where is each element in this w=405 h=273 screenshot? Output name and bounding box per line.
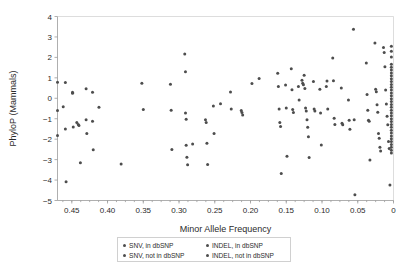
- x-tick-label: 0.35: [135, 206, 151, 215]
- x-tick-label: 0.10: [314, 206, 330, 215]
- data-point: [390, 91, 393, 94]
- data-point: [183, 52, 186, 55]
- data-point: [285, 107, 288, 110]
- legend-marker-icon: [123, 244, 126, 247]
- data-point: [331, 57, 334, 60]
- data-point: [62, 105, 65, 108]
- x-tick-label: 0.15: [278, 206, 294, 215]
- data-point: [382, 46, 385, 49]
- y-tick-label: −2: [43, 135, 53, 144]
- data-point: [378, 137, 381, 140]
- data-point: [347, 98, 350, 101]
- x-axis-title: Minor Allele Frequency: [180, 224, 272, 234]
- data-point: [332, 79, 335, 82]
- data-point: [384, 89, 387, 92]
- data-point: [302, 83, 305, 86]
- axis-tick-labels: 43210−1−2−3−4−50.450.400.350.300.250.200…: [43, 13, 396, 215]
- chart-legend: SNV, in dbSNP INDEL, in dbSNP SNV, not i…: [117, 237, 291, 262]
- legend-label: INDEL, in dbSNP: [212, 241, 263, 250]
- data-point: [390, 100, 393, 103]
- data-point: [386, 115, 389, 118]
- data-point: [72, 125, 75, 128]
- data-point: [376, 111, 379, 114]
- data-point: [319, 112, 322, 115]
- plot-canvas: 43210−1−2−3−4−50.450.400.350.300.250.200…: [0, 0, 405, 273]
- data-point: [340, 87, 343, 90]
- data-point: [365, 62, 368, 65]
- data-point: [390, 77, 393, 80]
- data-point: [85, 118, 88, 121]
- data-point: [184, 70, 187, 73]
- data-point: [285, 155, 288, 158]
- legend-label: INDEL, not in dbSNP: [212, 251, 274, 260]
- data-point: [290, 88, 293, 91]
- data-point: [390, 152, 393, 155]
- data-point: [185, 144, 188, 147]
- data-point: [366, 93, 369, 96]
- data-point: [85, 87, 88, 90]
- data-point: [71, 92, 74, 95]
- data-point: [280, 172, 283, 175]
- y-axis-title: PhyloP (Mammals): [8, 71, 18, 147]
- data-point: [92, 148, 95, 151]
- data-point: [306, 118, 309, 121]
- data-point: [191, 143, 194, 146]
- data-point: [65, 180, 68, 183]
- plot-frame: [58, 17, 394, 201]
- data-point: [258, 77, 261, 80]
- data-point: [91, 91, 94, 94]
- data-point: [120, 163, 123, 166]
- legend-label: SNV, in dbSNP: [129, 241, 173, 250]
- data-point: [303, 87, 306, 90]
- data-point: [390, 71, 393, 74]
- data-point: [333, 123, 336, 126]
- data-point: [290, 67, 293, 70]
- data-point: [250, 82, 253, 85]
- data-point: [206, 163, 209, 166]
- data-point: [390, 109, 393, 112]
- data-point: [390, 80, 393, 83]
- data-point: [353, 118, 356, 121]
- x-tick-label: 0.30: [171, 206, 187, 215]
- data-point: [170, 148, 173, 151]
- series-3: [390, 45, 393, 155]
- data-point: [278, 121, 281, 124]
- data-point: [390, 69, 393, 72]
- data-point: [56, 81, 59, 84]
- data-point: [307, 135, 310, 138]
- data-point: [277, 85, 280, 88]
- data-point: [390, 66, 393, 69]
- data-point: [390, 134, 393, 137]
- data-point: [390, 129, 393, 132]
- y-tick-label: 4: [48, 13, 53, 22]
- series-2: [365, 42, 392, 187]
- data-point: [85, 132, 88, 135]
- data-point: [390, 45, 393, 48]
- data-point: [352, 28, 355, 31]
- data-point: [390, 114, 393, 117]
- data-point: [390, 83, 393, 86]
- data-point: [390, 123, 393, 126]
- y-tick-label: 0: [48, 94, 53, 103]
- y-tick-label: −3: [43, 156, 53, 165]
- data-point: [376, 103, 379, 106]
- data-point: [373, 42, 376, 45]
- y-tick-label: −1: [43, 115, 53, 124]
- data-point: [390, 63, 393, 66]
- data-point: [379, 150, 382, 153]
- series-0: [56, 52, 261, 183]
- data-point: [170, 109, 173, 112]
- data-point: [390, 103, 393, 106]
- data-point: [387, 140, 390, 143]
- data-point: [390, 140, 393, 143]
- data-point: [390, 120, 393, 123]
- data-point: [390, 55, 393, 58]
- data-point: [186, 163, 189, 166]
- data-point: [97, 106, 100, 109]
- x-tick-label: 0.40: [100, 206, 116, 215]
- data-point: [205, 121, 208, 124]
- data-point: [390, 74, 393, 77]
- data-point: [241, 114, 244, 117]
- x-axis-ticks: [63, 201, 394, 204]
- legend-marker-icon: [206, 244, 209, 247]
